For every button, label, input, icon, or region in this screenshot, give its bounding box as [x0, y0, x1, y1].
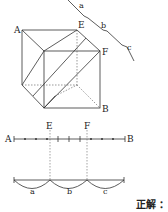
label-a-top: a	[79, 1, 84, 10]
label-b-top: b	[101, 21, 106, 30]
line-label-B: B	[127, 134, 134, 144]
vertex-F: F	[102, 47, 108, 57]
cube-diagram: a b c A E F B	[0, 0, 168, 212]
projection-lines	[50, 130, 87, 180]
arc-label-c: c	[103, 187, 108, 196]
arc-label-b: b	[67, 187, 72, 196]
vertex-A: A	[13, 25, 21, 35]
arc-label-a: a	[30, 187, 35, 196]
vertex-B: B	[102, 104, 109, 114]
line-label-A: A	[4, 134, 12, 144]
number-line	[14, 136, 125, 142]
line-label-E: E	[46, 121, 53, 131]
line-label-F: F	[84, 121, 90, 131]
answer-label: 正解 ：	[136, 196, 168, 211]
label-c-top: c	[127, 43, 132, 52]
vertex-E: E	[78, 20, 85, 30]
